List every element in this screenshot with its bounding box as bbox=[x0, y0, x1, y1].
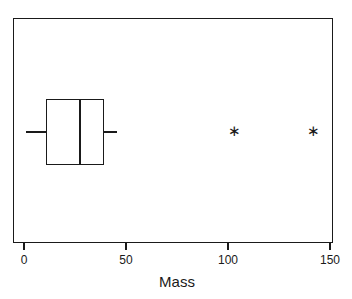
x-axis-tick-label: 50 bbox=[119, 253, 132, 267]
x-axis-tick-label: 0 bbox=[21, 253, 28, 267]
x-axis-tick bbox=[329, 243, 330, 250]
boxplot-figure: ∗ ∗ 0 50 100 150 Mass bbox=[0, 0, 352, 299]
x-axis-tick-label: 100 bbox=[218, 253, 238, 267]
plot-frame bbox=[13, 18, 333, 243]
x-axis-tick-label: 150 bbox=[320, 253, 340, 267]
x-axis-title: Mass bbox=[159, 273, 195, 290]
x-axis-tick bbox=[23, 243, 24, 250]
x-axis-tick bbox=[125, 243, 126, 250]
x-axis-tick bbox=[227, 243, 228, 250]
